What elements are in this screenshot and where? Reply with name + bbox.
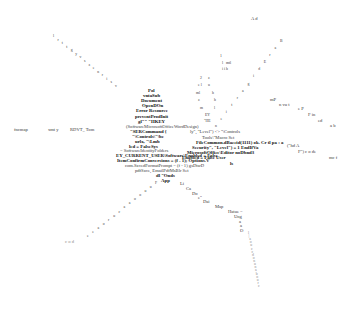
upper-left-arm-token: g <box>71 49 73 53</box>
upper-right-arm-token: r <box>269 54 270 58</box>
left-row-token: fncmap <box>14 128 28 133</box>
secondary-token: u <box>208 84 210 88</box>
right-arm-token: a b <box>330 124 335 129</box>
left-row-token: RDVT_ Tom <box>70 128 94 133</box>
right-arm-token: n vu t <box>279 103 289 108</box>
upper-left-arm-token: i <box>106 78 107 82</box>
upper-left-arm-token: e <box>93 67 95 71</box>
upper-right-arm-token: a <box>275 47 277 51</box>
right-cluster-token: F") c o de <box>298 150 316 155</box>
lower-left-arm-token: e <box>87 235 89 239</box>
right-cluster-token: ly", "Level") <> "\Controls <box>190 130 240 135</box>
secondary-token: ml <box>196 92 200 96</box>
lower-left-arm-token: o <box>134 198 136 202</box>
lower-right-token: Ca <box>186 187 191 192</box>
lower-right-token: Dai <box>203 200 210 205</box>
secondary-token: 2 <box>200 77 202 81</box>
upper-left-arm-token: l <box>53 35 54 39</box>
right-arm-token: F in <box>308 113 315 118</box>
right-arm-token: mP <box>270 98 276 103</box>
secondary-token: "HE <box>204 120 211 124</box>
secondary-token: h <box>212 92 214 96</box>
upper-right-arm-token: a <box>242 90 244 94</box>
lower-left-arm-token: a <box>129 202 131 206</box>
top-label: A d <box>251 17 258 22</box>
lower-left-arm-token: a <box>97 227 99 231</box>
secondary-token: z <box>198 99 200 103</box>
upper-left-arm-token: s <box>111 81 112 85</box>
vertical-tail-token: c <box>258 285 260 289</box>
upper-left-arm-token: r <box>57 39 58 43</box>
secondary-token: z <box>208 77 210 81</box>
left-row-token: xmt y <box>48 128 59 133</box>
secondary-token: mtl <box>226 62 231 66</box>
lower-left-arm-token: a <box>124 206 126 210</box>
lower-left-arm-token: o <box>139 194 141 198</box>
secondary-token: e l <box>198 84 202 88</box>
upper-left-arm-token: t <box>66 46 67 50</box>
secondary-token: 1 <box>220 55 222 59</box>
lower-left-arm-token: u <box>145 190 147 194</box>
upper-left-arm-token: n <box>97 71 99 75</box>
lower-left-arm-token: c <box>118 211 120 215</box>
upper-right-arm-token: B <box>280 40 283 44</box>
secondary-token: l <box>222 62 223 66</box>
upper-left-arm-token: v <box>115 85 117 89</box>
right-arm-token: ed <box>318 119 322 124</box>
right-cluster-token: Enabled = False User <box>182 156 226 161</box>
lower-right-token: Li <box>180 182 184 187</box>
upper-right-arm-token: g <box>248 83 250 87</box>
token-scatter-canvas: PolvntaSubDocumentOpenDOnError Resourcep… <box>0 0 356 313</box>
lower-right-token: Do <box>192 192 198 197</box>
upper-right-arm-token: d <box>258 68 260 72</box>
upper-left-arm-token: z <box>88 64 90 68</box>
right-arm-token: e P <box>298 107 304 112</box>
upper-left-arm-token: y <box>75 53 77 57</box>
lower-left-arm-token: F <box>155 182 157 186</box>
lower-left-arm-token: e <box>92 231 94 235</box>
lower-left-arm-token: u <box>113 215 115 219</box>
upper-right-arm-token: i <box>226 111 227 115</box>
lower-left-arm-token: o <box>103 223 105 227</box>
lower-right-token: e" <box>198 196 202 201</box>
upper-left-arm-token: t <box>62 42 63 46</box>
lower-left-label: c o d <box>65 240 74 245</box>
lower-left-arm-token: r <box>108 219 109 223</box>
upper-right-arm-token: i <box>253 75 254 79</box>
upper-left-arm-token: s <box>84 60 85 64</box>
lower-left-arm-token: u <box>150 186 152 190</box>
secondary-token: l <box>214 107 215 111</box>
secondary-token: i <box>222 68 223 72</box>
secondary-token: EY <box>205 114 210 118</box>
lower-right-token: O <box>240 229 243 234</box>
upper-right-arm-token: t <box>231 104 232 108</box>
upper-right-arm-token: e <box>220 118 222 122</box>
upper-right-arm-token: E <box>264 61 266 65</box>
upper-left-arm-token: r <box>102 74 103 78</box>
right-cluster-token: ("hd A <box>287 144 299 149</box>
lower-right-token: Map <box>215 205 223 210</box>
secondary-token: m <box>200 107 203 111</box>
secondary-token: h <box>214 99 216 103</box>
right-cluster-token: ls <box>230 162 233 167</box>
upper-right-arm-token: n <box>215 125 217 129</box>
upper-right-arm-token: r <box>237 97 238 101</box>
right-cluster-token: mc f <box>329 156 337 161</box>
center-token: App <box>161 179 170 184</box>
upper-left-arm-token: v <box>80 56 82 60</box>
secondary-token: i h <box>224 68 228 72</box>
